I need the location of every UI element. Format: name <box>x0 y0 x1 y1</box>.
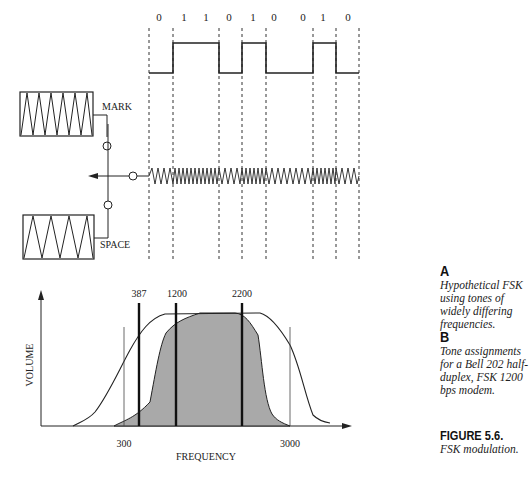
y-axis-arrow-icon <box>38 290 44 300</box>
tone-label-387: 387 <box>132 288 147 299</box>
caption-a: A Hypothetical FSK using tones of widely… <box>440 262 530 331</box>
bit-labels: 0 1 1 0 1 0 0 1 0 <box>156 11 351 23</box>
bit-label: 1 <box>181 11 187 23</box>
space-low-frequency-wave <box>24 216 93 258</box>
figure-title: FIGURE 5.6. <box>440 428 517 443</box>
figure-subtitle: FSK modulation. <box>440 443 530 456</box>
mark-label: MARK <box>102 101 133 112</box>
bit-label: 1 <box>320 11 326 23</box>
bit-label: 0 <box>300 11 306 23</box>
x-axis-arrow-icon <box>342 423 352 429</box>
bit-label: 1 <box>203 11 209 23</box>
space-oscillator: SPACE <box>23 119 130 259</box>
caption-b-text: Tone assignments for a Bell 202 half-dup… <box>440 345 530 397</box>
bit-label: 0 <box>156 11 162 23</box>
bit-label: 0 <box>271 11 277 23</box>
bit-label: 0 <box>345 11 351 23</box>
x-tick-3000: 3000 <box>280 438 300 449</box>
tone-label-1200: 1200 <box>167 288 187 299</box>
tone-label-2200: 2200 <box>232 288 252 299</box>
y-axis-label: VOLUME <box>24 344 35 387</box>
output-switch <box>88 172 149 180</box>
figure-caption: FIGURE 5.6. FSK modulation. <box>440 428 530 456</box>
bit-boundary-lines <box>149 28 359 262</box>
modem-spectrum-area <box>114 313 290 426</box>
caption-a-text: Hypothetical FSK using tones of widely d… <box>440 279 530 331</box>
space-label: SPACE <box>100 239 130 250</box>
output-arrow-icon <box>88 173 98 179</box>
x-tick-300: 300 <box>117 438 132 449</box>
bit-label: 0 <box>226 11 232 23</box>
caption-b-letter: B <box>440 328 517 345</box>
caption-a-letter: A <box>440 262 517 279</box>
fsk-output-wave <box>149 168 359 184</box>
digital-bit-waveform <box>149 43 359 73</box>
caption-b: B Tone assignments for a Bell 202 half-d… <box>440 328 530 397</box>
spectrum-chart: 387 1200 2200 300 3000 FREQUENCY VOLUME <box>24 288 352 462</box>
mark-high-frequency-wave <box>21 93 92 135</box>
bit-label: 1 <box>250 11 256 23</box>
x-axis-label: FREQUENCY <box>176 451 236 462</box>
mark-oscillator: MARK <box>20 92 133 150</box>
